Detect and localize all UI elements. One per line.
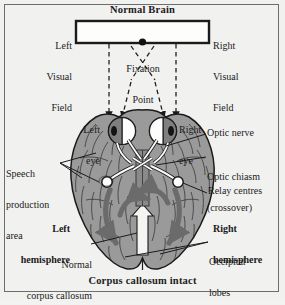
left-eye-label: Left eye [58,104,100,187]
figure-title: Normal Brain [0,5,285,16]
occipital-lobes-label: Occipital lobes [209,236,246,305]
corpus-callosum-label: Normal corpus callosum [0,239,92,305]
figure-caption: Corpus callosum intact [0,276,285,287]
fixation-point-label: Fixation Point [110,43,176,126]
visual-field-bar [76,21,209,46]
relay-centres-label: Relay centres [208,186,262,196]
optic-nerve-label: Optic nerve [207,128,254,138]
